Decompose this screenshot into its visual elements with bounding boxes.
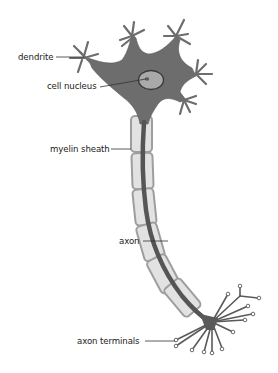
label-dendrite: dendrite (18, 52, 53, 62)
neuron-diagram: dendrite cell nucleus myelin sheath axon… (0, 0, 278, 373)
label-axon-terminals: axon terminals (77, 336, 140, 346)
label-myelin-sheath: myelin sheath (50, 144, 110, 154)
cell-body (70, 20, 212, 124)
label-axon: axon (119, 236, 139, 246)
label-cell-nucleus: cell nucleus (47, 81, 97, 91)
